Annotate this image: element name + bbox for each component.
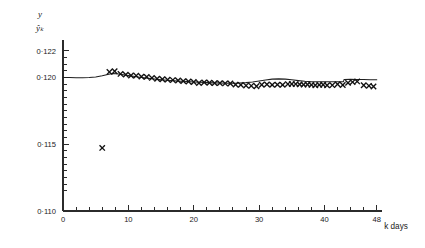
data-point-marker bbox=[254, 84, 259, 89]
data-point-marker bbox=[269, 82, 274, 87]
data-point-marker bbox=[280, 82, 285, 87]
data-point-marker bbox=[275, 82, 280, 87]
data-point-marker bbox=[371, 84, 376, 89]
data-point-marker bbox=[196, 80, 201, 85]
data-point-marker bbox=[249, 83, 254, 88]
y-axis-label: y bbox=[37, 9, 42, 19]
axis-lines bbox=[63, 40, 382, 211]
chart-canvas: y ŷₖ k days 0·1220·1200·1150·110 0102030… bbox=[0, 0, 425, 248]
data-point-marker bbox=[335, 82, 340, 87]
x-axis-minor-ticks bbox=[76, 207, 364, 211]
x-tick-label: 20 bbox=[190, 215, 198, 224]
y-tick-label: 0·120 bbox=[37, 73, 56, 82]
data-point-marker bbox=[139, 74, 144, 79]
data-point-marker bbox=[149, 75, 154, 80]
y-tick-label: 0·115 bbox=[37, 140, 56, 149]
data-point-marker bbox=[259, 82, 264, 87]
x-tick-label: 48 bbox=[373, 215, 381, 224]
x-tick-label: 40 bbox=[320, 215, 328, 224]
data-point-marker bbox=[361, 83, 366, 88]
data-point-marker bbox=[144, 74, 149, 79]
data-point-marker bbox=[340, 82, 345, 87]
y-tick-label: 0·122 bbox=[37, 47, 56, 56]
fitted-line-series bbox=[63, 74, 377, 84]
data-point-marker bbox=[100, 145, 105, 150]
x-axis-major-ticks bbox=[128, 205, 376, 211]
axis-titles: y ŷₖ k days bbox=[35, 9, 408, 231]
x-axis-tick-labels: 01020304048 bbox=[61, 215, 381, 224]
chart-figure: y ŷₖ k days 0·1220·1200·1150·110 0102030… bbox=[0, 0, 425, 248]
data-point-marker bbox=[243, 83, 248, 88]
x-tick-label: 0 bbox=[61, 215, 65, 224]
data-point-marker bbox=[134, 73, 139, 78]
x-tick-label: 30 bbox=[255, 215, 263, 224]
y-axis-label-secondary: ŷₖ bbox=[35, 23, 44, 33]
y-tick-label: 0·110 bbox=[37, 207, 56, 216]
y-axis-tick-labels: 0·1220·1200·1150·110 bbox=[37, 47, 56, 216]
data-point-marker bbox=[264, 82, 269, 87]
data-point-marker bbox=[330, 82, 335, 87]
x-tick-label: 10 bbox=[124, 215, 132, 224]
observation-markers bbox=[100, 69, 377, 151]
data-point-marker bbox=[324, 83, 329, 88]
x-axis-label: k days bbox=[384, 222, 408, 231]
